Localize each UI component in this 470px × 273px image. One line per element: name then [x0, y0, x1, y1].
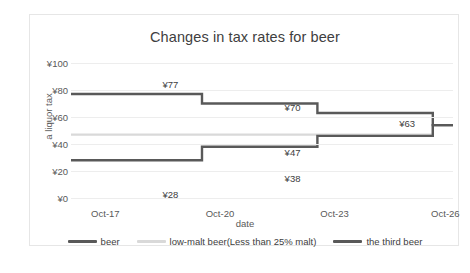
- gridline: [71, 144, 453, 145]
- data-label-low-malt-47: ¥47: [285, 147, 301, 158]
- y-tick-label: ¥60: [30, 112, 68, 123]
- legend-swatch-icon: [68, 240, 97, 243]
- series-line-low-malt-beer: [71, 125, 453, 135]
- x-axis-title: date: [30, 218, 460, 229]
- data-label-third-38: ¥38: [285, 173, 301, 184]
- data-label-beer-77: ¥77: [162, 79, 178, 90]
- gridline: [71, 198, 453, 199]
- gridline: [71, 90, 453, 91]
- y-axis-tick-labels: ¥100 ¥80 ¥60 ¥40 ¥20 ¥0: [30, 63, 68, 198]
- gridline: [71, 117, 453, 118]
- y-tick-label: ¥0: [30, 193, 68, 204]
- chart-legend: beer low-malt beer(Less than 25% malt) t…: [30, 233, 460, 249]
- chart-title: Changes in tax rates for beer: [30, 29, 460, 45]
- series-lines: [71, 63, 453, 198]
- chart-screenshot: Changes in tax rates for beer a liquor t…: [0, 0, 470, 273]
- series-line-beer: [71, 94, 453, 125]
- legend-label: beer: [101, 236, 120, 247]
- data-label-beer-70: ¥70: [285, 102, 301, 113]
- y-tick-label: ¥100: [30, 58, 68, 69]
- gridline: [71, 63, 453, 64]
- plot-area: ¥77 ¥70 ¥63 ¥54 ¥47 ¥38 ¥28: [71, 63, 453, 198]
- chart-container: Changes in tax rates for beer a liquor t…: [29, 14, 459, 246]
- series-line-the-third-beer: [71, 125, 453, 160]
- y-tick-label: ¥20: [30, 166, 68, 177]
- legend-item-beer[interactable]: beer: [68, 236, 120, 247]
- y-tick-label: ¥40: [30, 139, 68, 150]
- data-label-third-28: ¥28: [162, 189, 178, 200]
- y-tick-label: ¥80: [30, 85, 68, 96]
- legend-label: low-malt beer(Less than 25% malt): [170, 236, 317, 247]
- gridline: [71, 171, 453, 172]
- legend-label: the third beer: [366, 236, 422, 247]
- legend-swatch-icon: [137, 240, 166, 243]
- legend-item-the-third-beer[interactable]: the third beer: [333, 236, 422, 247]
- data-label-beer-63: ¥63: [399, 118, 415, 129]
- legend-swatch-icon: [333, 240, 362, 243]
- legend-item-low-malt-beer[interactable]: low-malt beer(Less than 25% malt): [137, 236, 317, 247]
